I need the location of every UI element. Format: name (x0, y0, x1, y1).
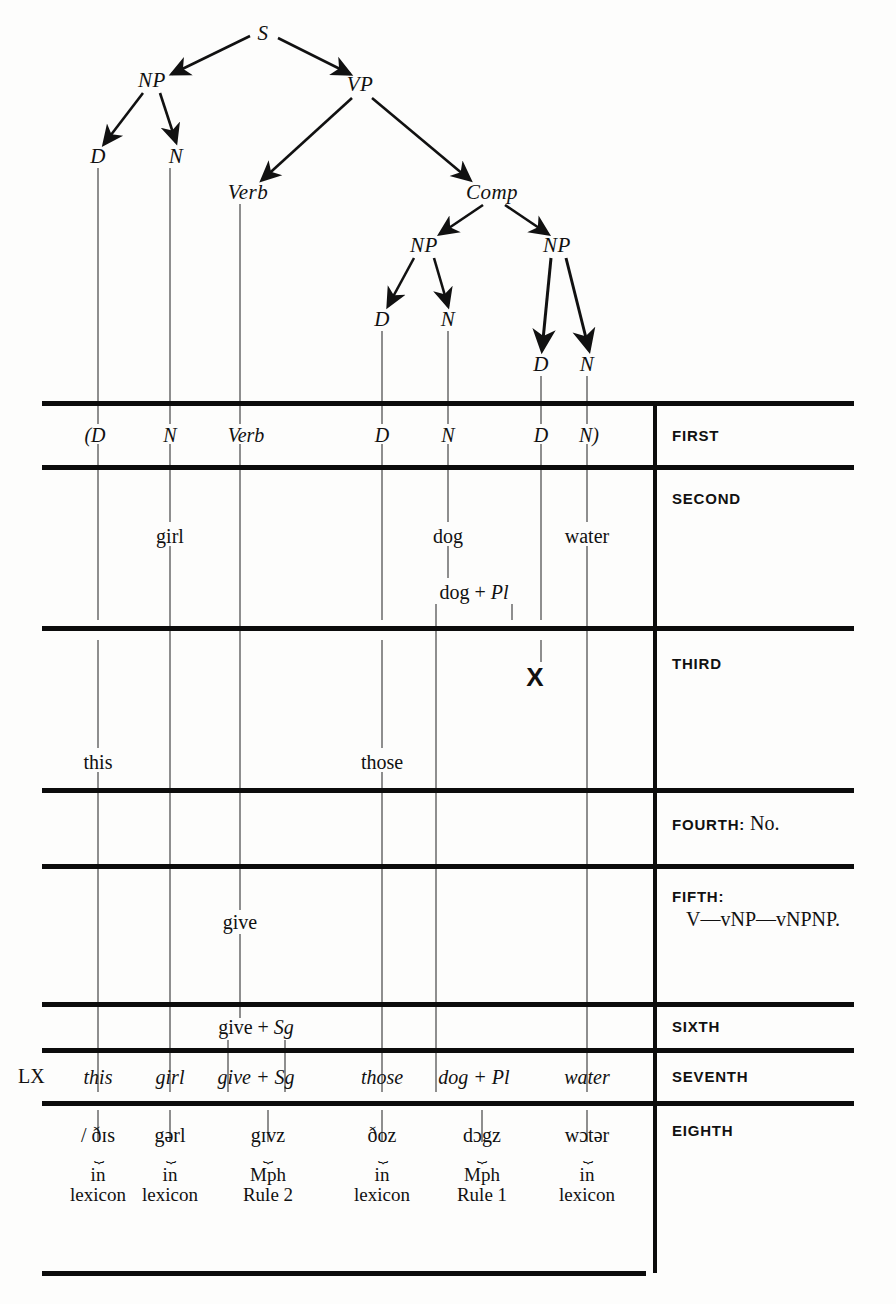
seventh-cell-4: those (361, 1066, 403, 1089)
source-note-line1: in (142, 1165, 198, 1186)
under-brace-icon: ⏟ (354, 1148, 410, 1160)
stage-label-first: FIRST (672, 427, 719, 444)
tree-node-vp: VP (347, 72, 374, 97)
second-cell-water: water (565, 525, 609, 548)
dog-plus-text: dog + (439, 581, 490, 603)
source-note-line1: in (70, 1165, 126, 1186)
stage-label-sixth: SIXTH (672, 1018, 720, 1035)
sixth-cell-give-sg: give + Sg (218, 1016, 294, 1039)
stage-fourth-name: FOURTH: (672, 816, 745, 833)
eighth-item-4: ðoz ⏟ in lexicon (354, 1124, 410, 1206)
seventh-cell-1: this (84, 1066, 113, 1089)
stage-fourth-value: No. (750, 812, 779, 834)
source-note-line2: Rule 1 (457, 1185, 507, 1206)
first-cell-1: (D (84, 424, 105, 447)
tree-node-s: S (258, 21, 269, 46)
under-brace-icon: ⏟ (559, 1148, 615, 1160)
source-note-line2: lexicon (142, 1185, 198, 1206)
stage-column-divider (653, 403, 657, 1273)
first-cell-3: Verb (228, 424, 265, 447)
rule-top (42, 401, 854, 406)
first-cell-4: D (375, 424, 389, 447)
stage-label-third: THIRD (672, 655, 722, 672)
eighth-item-1: / ðɪs ⏟ in lexicon (70, 1124, 126, 1206)
stage-label-fourth: FOURTH: No. (672, 812, 780, 835)
phonetic-transcription: dɔgz (463, 1124, 501, 1146)
under-brace-icon: ⏟ (70, 1148, 126, 1160)
under-brace-icon: ⏟ (142, 1148, 198, 1160)
seventh-cell-2: girl (156, 1066, 185, 1089)
seventh-cell-3: give + Sg (218, 1066, 295, 1089)
source-note-line2: lexicon (354, 1185, 410, 1206)
third-cell-those: those (361, 751, 403, 774)
tree-node-n-2: N (441, 307, 456, 332)
third-cell-x-mark: X (526, 662, 543, 693)
source-note-line2: Rule 2 (243, 1185, 293, 1206)
phonetic-transcription: gərl (154, 1124, 185, 1146)
tree-node-np-3: NP (543, 233, 571, 258)
source-note-line1: Mph (457, 1165, 507, 1186)
first-cell-2: N (163, 424, 176, 447)
stage-label-seventh: SEVENTH (672, 1068, 748, 1085)
phonetic-transcription: wɔtər (565, 1124, 609, 1146)
derivation-figure: S NP VP D N Verb Comp NP NP D N D N (D N… (0, 0, 896, 1304)
first-cell-6: D (534, 424, 548, 447)
sg-morpheme: Sg (274, 1016, 294, 1038)
under-brace-icon: ⏟ (243, 1148, 293, 1160)
stage-label-fifth: FIFTH:V—vNP—vNPNP. (672, 888, 840, 931)
tree-node-d-2: D (374, 307, 390, 332)
give-plus-text: give + (218, 1016, 274, 1038)
stage-fifth-value: V—vNP—vNPNP. (672, 905, 840, 931)
third-cell-this: this (84, 751, 113, 774)
second-cell-girl: girl (156, 525, 184, 548)
first-cell-7: N) (579, 424, 599, 447)
eighth-item-3: gɪvz ⏟ Mph Rule 2 (243, 1124, 293, 1206)
rule-second-bottom (42, 626, 854, 631)
eighth-item-5: dɔgz ⏟ Mph Rule 1 (457, 1124, 507, 1206)
source-note-line1: in (354, 1165, 410, 1186)
tree-node-d-3: D (533, 352, 549, 377)
tree-node-n-1: N (169, 144, 184, 169)
rule-fourth-bottom (42, 864, 854, 869)
rule-fifth-bottom (42, 1002, 854, 1007)
stage-label-second: SECOND (672, 490, 741, 507)
stage-label-eighth: EIGHTH (672, 1122, 733, 1139)
source-note-line2: lexicon (70, 1185, 126, 1206)
first-cell-5: N (441, 424, 454, 447)
source-note-line2: lexicon (559, 1185, 615, 1206)
rule-bottom (42, 1271, 646, 1276)
tree-node-d-1: D (90, 144, 106, 169)
fifth-cell-give: give (223, 911, 257, 934)
eighth-item-6: wɔtər ⏟ in lexicon (559, 1124, 615, 1206)
second-cell-dog-pl: dog + Pl (439, 581, 508, 604)
tree-edges-layer (0, 0, 896, 1304)
eighth-item-2: gərl ⏟ in lexicon (142, 1124, 198, 1206)
tree-node-np-2: NP (410, 233, 438, 258)
phonetic-transcription: ðoz (368, 1124, 397, 1146)
seventh-cell-6: water (564, 1066, 610, 1089)
seventh-label-lx: LX (18, 1065, 45, 1088)
seventh-cell-5: dog + Pl (438, 1066, 509, 1089)
tree-node-comp: Comp (466, 180, 518, 205)
source-note-line1: in (559, 1165, 615, 1186)
tree-node-verb: Verb (228, 180, 269, 205)
tree-node-np-1: NP (138, 68, 166, 93)
source-note-line1: Mph (243, 1165, 293, 1186)
tree-node-n-3: N (580, 352, 595, 377)
pl-morpheme: Pl (491, 581, 509, 603)
stage-fifth-name: FIFTH: (672, 888, 724, 905)
phonetic-transcription: gɪvz (251, 1124, 285, 1146)
rule-sixth-bottom (42, 1048, 854, 1053)
rule-third-bottom (42, 788, 854, 793)
second-cell-dog: dog (433, 525, 463, 548)
under-brace-icon: ⏟ (457, 1148, 507, 1160)
phonetic-transcription: / ðɪs (81, 1124, 115, 1146)
rule-first-bottom (42, 465, 854, 470)
rule-seventh-bottom (42, 1101, 854, 1106)
